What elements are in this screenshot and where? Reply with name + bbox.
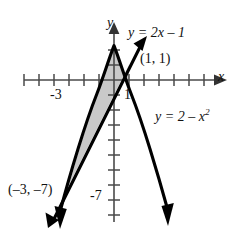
x-tick-label-neg-three: -3 (50, 88, 62, 102)
parabola-equation-text: y = 2 – x (155, 109, 205, 124)
y-tick-label-neg-seven: -7 (90, 189, 102, 203)
parabola-equation-exponent: 2 (205, 107, 210, 117)
parabola-equation-label: y = 2 – x2 (155, 110, 210, 124)
x-axis-label: x (218, 70, 224, 84)
intersection-point-label: (1, 1) (140, 52, 170, 66)
line-equation-label: y = 2x – 1 (128, 26, 185, 40)
x-tick-label-one: 1 (124, 88, 131, 102)
lower-point-label: (–3, –7) (8, 183, 52, 197)
y-axis-label: y (107, 16, 113, 30)
parabola-right-arrowhead (162, 203, 174, 226)
graph-figure: x y y = 2x – 1 y = 2 – x2 (1, 1) (–3, –7… (0, 0, 243, 232)
